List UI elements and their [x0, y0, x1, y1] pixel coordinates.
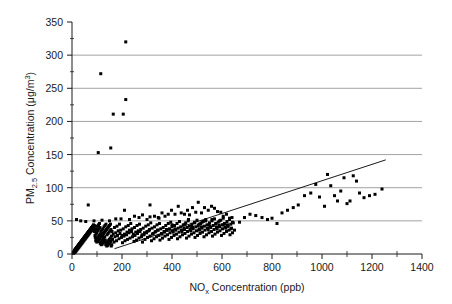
data-point — [112, 113, 115, 116]
data-point — [222, 217, 225, 220]
data-point — [98, 234, 101, 237]
data-point — [329, 184, 332, 187]
data-point — [326, 173, 329, 176]
data-point — [93, 225, 96, 228]
y-tick-label: 50 — [51, 215, 63, 227]
data-point — [124, 40, 127, 43]
data-point — [225, 213, 228, 216]
data-point — [124, 98, 127, 101]
data-point — [346, 202, 349, 205]
y-tick-label: 250 — [45, 82, 63, 94]
data-point — [286, 209, 289, 212]
data-point — [358, 192, 361, 195]
data-point — [149, 203, 152, 206]
data-point — [187, 219, 190, 222]
data-point — [349, 199, 352, 202]
data-point — [169, 221, 172, 224]
data-point — [87, 203, 90, 206]
data-point — [79, 219, 82, 222]
data-point — [129, 222, 132, 225]
x-axis-title-rest: Concentration (ppb) — [209, 281, 305, 293]
data-point — [231, 216, 234, 219]
data-point — [203, 206, 206, 209]
chart-canvas: 0200400600800100012001400 05010015020025… — [0, 0, 452, 304]
data-point — [261, 216, 264, 219]
data-point — [183, 213, 186, 216]
data-point — [232, 221, 235, 224]
data-point — [254, 214, 257, 217]
x-tick-label: 1000 — [310, 261, 334, 273]
data-point — [363, 196, 366, 199]
data-point — [177, 205, 180, 208]
data-point — [218, 224, 221, 227]
data-point — [200, 211, 203, 214]
data-point — [318, 195, 321, 198]
data-point — [138, 223, 141, 226]
data-point — [170, 209, 173, 212]
data-point — [99, 72, 102, 75]
data-point — [343, 176, 346, 179]
data-point — [99, 226, 102, 229]
data-point — [188, 213, 191, 216]
data-point — [146, 218, 149, 221]
data-point — [103, 235, 106, 238]
data-point — [149, 221, 152, 224]
y-axis-title-mid: Concentration (μg/m — [24, 79, 36, 178]
data-point — [200, 225, 203, 228]
data-point — [149, 215, 152, 218]
data-point — [336, 199, 339, 202]
data-point — [133, 215, 136, 218]
data-point — [84, 220, 87, 223]
data-point — [194, 211, 197, 214]
data-point — [368, 194, 371, 197]
y-tick-label: 300 — [45, 49, 63, 61]
data-point — [105, 223, 108, 226]
data-point — [243, 216, 246, 219]
data-point — [130, 230, 133, 233]
data-point — [141, 213, 144, 216]
data-point — [233, 229, 236, 232]
x-tick-label: 400 — [163, 261, 181, 273]
data-point — [118, 223, 121, 226]
data-point — [297, 203, 300, 206]
data-point — [381, 188, 384, 191]
x-tick-label: 1200 — [360, 261, 384, 273]
data-point — [352, 174, 355, 177]
y-axis-title-base: PM — [24, 188, 36, 204]
data-point — [97, 151, 100, 154]
data-point — [98, 222, 101, 225]
data-point — [139, 230, 142, 233]
data-point — [276, 222, 279, 225]
data-point — [186, 209, 189, 212]
data-point — [213, 207, 216, 210]
data-point — [93, 219, 96, 222]
data-point — [210, 205, 213, 208]
y-axis-title-end: ) — [24, 72, 36, 76]
data-point — [303, 194, 306, 197]
data-point — [120, 217, 123, 220]
y-tick-label: 0 — [57, 248, 63, 260]
y-tick-label: 150 — [45, 149, 63, 161]
data-point — [110, 243, 113, 246]
data-point — [339, 190, 342, 193]
x-tick-label: 600 — [213, 261, 231, 273]
data-point — [374, 193, 377, 196]
data-point — [213, 217, 216, 220]
data-point — [158, 222, 161, 225]
x-axis-title-base: NO — [189, 281, 205, 293]
data-point — [141, 241, 144, 244]
data-point — [180, 211, 183, 214]
x-tick-label: 800 — [263, 261, 281, 273]
data-point — [164, 215, 167, 218]
data-point — [197, 201, 200, 204]
data-point — [148, 229, 151, 232]
data-point — [292, 206, 295, 209]
data-point — [138, 216, 141, 219]
data-point — [226, 223, 229, 226]
data-point — [123, 209, 126, 212]
data-point — [238, 221, 241, 224]
data-point — [309, 192, 312, 195]
x-tick-label: 200 — [113, 261, 131, 273]
data-point — [281, 211, 284, 214]
data-point — [122, 113, 125, 116]
